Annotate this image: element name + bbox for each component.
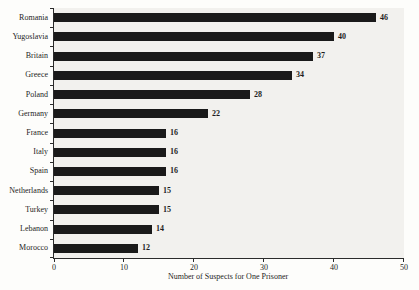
bar-chart-canvas: RomaniaYugoslaviaBritainGreecePolandGerm… xyxy=(0,0,419,290)
bar-value-label: 15 xyxy=(163,205,171,215)
bar-value-label: 12 xyxy=(142,243,150,253)
bar-value-label: 15 xyxy=(163,186,171,196)
y-axis-tick xyxy=(50,104,54,105)
bar-value-label: 22 xyxy=(212,109,220,119)
bar xyxy=(54,205,159,214)
x-tick-label: 20 xyxy=(182,263,206,272)
y-axis-tick xyxy=(50,200,54,201)
plot-area: 4640373428221616161515141201020304050 xyxy=(53,8,404,259)
y-axis-tick xyxy=(50,123,54,124)
bar xyxy=(54,129,166,138)
category-label: Lebanon xyxy=(20,224,48,234)
category-label: France xyxy=(26,128,48,138)
bar-value-label: 16 xyxy=(170,166,178,176)
bar-value-label: 28 xyxy=(254,90,262,100)
bar-value-label: 37 xyxy=(317,51,325,61)
y-axis-tick xyxy=(50,85,54,86)
bar-value-label: 16 xyxy=(170,147,178,157)
bar xyxy=(54,32,334,41)
x-tick-label: 0 xyxy=(42,263,66,272)
x-axis-tick xyxy=(123,258,124,262)
bar-value-label: 40 xyxy=(338,32,346,42)
bar-value-label: 34 xyxy=(296,70,304,80)
y-axis-tick xyxy=(50,46,54,47)
bar xyxy=(54,71,292,80)
x-tick-label: 10 xyxy=(112,263,136,272)
bar xyxy=(54,244,138,253)
bar xyxy=(54,186,159,195)
category-label: Yugoslavia xyxy=(12,32,48,42)
category-label: Italy xyxy=(33,147,48,157)
x-axis-tick xyxy=(54,258,55,262)
category-label: Greece xyxy=(25,70,48,80)
x-tick-label: 30 xyxy=(252,263,276,272)
x-tick-label: 50 xyxy=(392,263,416,272)
x-axis-tick xyxy=(333,258,334,262)
y-axis-tick xyxy=(50,239,54,240)
category-label: Turkey xyxy=(25,205,48,215)
category-label: Romania xyxy=(19,13,48,23)
bar xyxy=(54,90,250,99)
category-label: Poland xyxy=(26,90,48,100)
category-label: Morocco xyxy=(19,243,48,253)
bar xyxy=(54,13,376,22)
category-label: Spain xyxy=(30,166,48,176)
bar xyxy=(54,167,166,176)
x-axis-tick xyxy=(193,258,194,262)
category-label: Netherlands xyxy=(9,186,48,196)
y-axis-tick xyxy=(50,220,54,221)
y-axis-tick xyxy=(50,8,54,9)
x-axis-tick xyxy=(263,258,264,262)
y-axis-tick xyxy=(50,143,54,144)
y-axis-labels: RomaniaYugoslaviaBritainGreecePolandGerm… xyxy=(0,8,53,258)
y-axis-tick xyxy=(50,66,54,67)
y-axis-tick xyxy=(50,162,54,163)
bar xyxy=(54,148,166,157)
x-tick-label: 40 xyxy=(322,263,346,272)
y-axis-tick xyxy=(50,181,54,182)
bar xyxy=(54,109,208,118)
x-axis-tick xyxy=(403,258,404,262)
bar-value-label: 16 xyxy=(170,128,178,138)
category-label: Britain xyxy=(26,51,48,61)
bar-value-label: 46 xyxy=(380,13,388,23)
bar xyxy=(54,52,313,61)
bar xyxy=(54,225,152,234)
category-label: Germany xyxy=(18,109,48,119)
x-axis-title: Number of Suspects for One Prisoner xyxy=(53,272,403,282)
y-axis-tick xyxy=(50,27,54,28)
bar-value-label: 14 xyxy=(156,224,164,234)
